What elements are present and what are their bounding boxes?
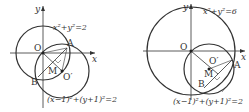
label-o-prime: O′ — [63, 72, 72, 82]
equation-circle-1: x²+y²=2 — [53, 23, 87, 32]
y-axis-arrow-icon — [41, 6, 45, 11]
label-a: A — [233, 60, 241, 70]
label-y-axis: y — [182, 2, 189, 12]
label-a: A — [66, 38, 74, 48]
label-o: O — [34, 43, 41, 53]
equation-circle-1: x²+y²=6 — [203, 7, 237, 16]
diagram-canvas: O A B M O′ x y x²+y²=2 (x−1)²+(y+1)²=2 O… — [0, 0, 249, 112]
label-b: B — [198, 79, 205, 89]
figure-2: O A B M O′ x y x²+y²=6 (x−1)²+(y+1)²=2 — [143, 2, 246, 106]
label-y-axis: y — [34, 4, 41, 14]
label-x-axis: x — [241, 52, 246, 62]
equation-circle-2: (x−1)²+(y+1)²=2 — [173, 97, 243, 106]
label-o: O — [180, 42, 187, 52]
point-o — [42, 52, 45, 55]
label-o-prime: O′ — [209, 56, 218, 66]
label-m: M — [48, 66, 57, 76]
equation-circle-2: (x−1)²+(y+1)²=2 — [47, 95, 117, 104]
point-o — [190, 50, 193, 53]
label-x-axis: x — [92, 54, 97, 64]
right-angle-mark — [55, 60, 61, 63]
label-m: M — [204, 69, 213, 79]
figure-1: O A B M O′ x y x²+y²=2 (x−1)²+(y+1)²=2 — [10, 4, 117, 108]
label-b: B — [31, 77, 38, 87]
